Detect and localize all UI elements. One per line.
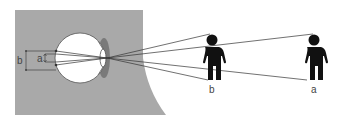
person-label-b: b xyxy=(209,84,215,95)
retina-label-a: a xyxy=(37,53,43,64)
person-b-icon xyxy=(203,35,226,81)
person-label-a: a xyxy=(311,84,317,95)
eye-diagram: b a b a xyxy=(0,0,347,127)
person-a-icon xyxy=(305,35,328,81)
retina-label-b: b xyxy=(17,55,23,66)
eyeball xyxy=(55,33,105,83)
